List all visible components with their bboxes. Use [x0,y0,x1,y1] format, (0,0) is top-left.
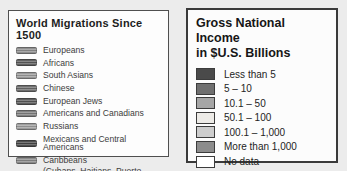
migration-swatch [16,157,37,164]
gni-swatch [196,141,215,153]
gni-legend: Gross National Income in $U.S. Billions … [186,8,338,163]
legend-row-chinese: Chinese [16,84,161,93]
legend-label: Chinese [43,84,75,93]
legend-label: Americans and Canadians [43,109,144,118]
legend-label: 100.1 – 1,000 [224,127,285,138]
gni-swatch [196,126,215,138]
gni-title: Gross National Income in $U.S. Billions [196,16,328,61]
legend-label: 5 – 10 [224,83,252,94]
legend-row-50-100: 50.1 – 100 [196,112,328,124]
gni-swatch [196,83,215,95]
gni-swatch [196,156,215,168]
migration-swatch [16,85,37,92]
legend-label: Europeans [43,46,85,55]
legend-label: Caribbeans [43,156,87,165]
legend-label: More than 1,000 [224,141,297,152]
gni-swatch [196,68,215,80]
legend-row-european-jews: European Jews [16,97,161,106]
legend-row-5-10: 5 – 10 [196,83,328,95]
migration-swatch [16,59,37,66]
legend-label: Africans [43,59,74,68]
world-migrations-legend: World Migrations Since 1500 Europeans Af… [8,10,169,157]
legend-label: No data [224,156,259,167]
gni-swatch [196,97,215,109]
legend-label: 10.1 – 50 [224,98,266,109]
migration-swatch [16,72,37,79]
legend-row-less-than-5: Less than 5 [196,68,328,80]
legend-row-americans-canadians: Americans and Canadians [16,109,161,118]
legend-sublabel-caribbeans: (Cubans, Haitians, Puerto Ricans) [43,167,161,171]
legend-row-south-asians: South Asians [16,71,161,80]
migration-swatch [16,110,37,117]
migration-swatch [16,47,37,54]
legend-label: Mexicans and Central Americans [43,135,161,152]
migration-swatch [16,123,37,130]
legend-row-europeans: Europeans [16,46,161,55]
legend-label: South Asians [43,71,93,80]
migration-swatch [16,98,37,105]
legend-row-100-1000: 100.1 – 1,000 [196,126,328,138]
legend-label: Russians [43,122,78,131]
legend-row-mexicans-central-americans: Mexicans and Central Americans [16,135,161,152]
migration-swatch [16,140,37,147]
legend-row-caribbeans: Caribbeans [16,156,161,165]
legend-row-africans: Africans [16,59,161,68]
world-migrations-title: World Migrations Since 1500 [16,17,161,41]
gni-title-line1: Gross National Income [196,16,285,45]
legend-row-10-50: 10.1 – 50 [196,97,328,109]
gni-title-line2: in $U.S. Billions [196,46,290,60]
legend-label: 50.1 – 100 [224,112,271,123]
legend-row-russians: Russians [16,122,161,131]
legend-row-more-than-1000: More than 1,000 [196,141,328,153]
legend-label: European Jews [43,97,102,106]
gni-swatch [196,112,215,124]
legend-label: Less than 5 [224,69,276,80]
legend-row-no-data: No data [196,156,328,168]
